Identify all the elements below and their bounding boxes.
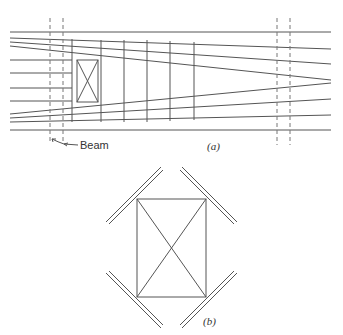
bar-top-left (106, 167, 163, 224)
bar-top-right (180, 167, 237, 224)
figure-b (106, 167, 237, 328)
figure-a (10, 18, 331, 146)
diagram-canvas: Beam (a) (b) (0, 0, 343, 335)
bar-bottom-left (106, 271, 163, 328)
beam-label: Beam (80, 139, 109, 151)
caption-a: (a) (207, 140, 220, 153)
caption-b: (b) (203, 315, 216, 328)
